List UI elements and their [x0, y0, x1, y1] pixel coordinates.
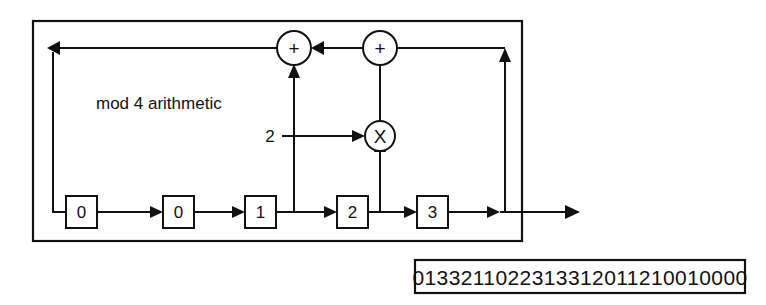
arrowhead-into-left-adder-bottom	[288, 64, 300, 78]
register-3-value: 2	[348, 203, 357, 222]
arrowhead-riser-top	[499, 48, 511, 62]
arrowhead-at-output-junction	[487, 206, 500, 218]
register-4-value: 3	[428, 203, 437, 222]
adder-right-glyph: +	[374, 38, 385, 59]
arrowhead-into-left-adder-right	[311, 41, 324, 55]
register-2-value: 1	[256, 203, 265, 222]
constant-multiplier-label: 2	[265, 127, 274, 146]
arrowhead-into-reg4	[404, 206, 417, 218]
adder-left-glyph: +	[288, 38, 299, 59]
arrowhead-into-reg2	[232, 206, 245, 218]
register-0-value: 0	[77, 203, 86, 222]
diagram-canvas: + + X 2 0 0 1 2 3 mod 4 arithmetic 01332…	[0, 0, 766, 305]
output-sequence-text: 0133211022313312011210010000	[412, 266, 747, 289]
arrowhead-output	[565, 205, 580, 219]
mod4-arithmetic-label: mod 4 arithmetic	[96, 94, 222, 113]
lfsr-block-diagram: + + X 2 0 0 1 2 3 mod 4 arithmetic 01332…	[0, 0, 766, 305]
feedback-down-wire	[53, 52, 66, 212]
multiplier-glyph: X	[374, 126, 387, 147]
arrowhead-into-reg1	[150, 206, 163, 218]
register-1-value: 0	[174, 203, 183, 222]
arrowhead-into-multiplier-left	[352, 130, 365, 142]
arrowhead-into-reg3	[324, 206, 337, 218]
